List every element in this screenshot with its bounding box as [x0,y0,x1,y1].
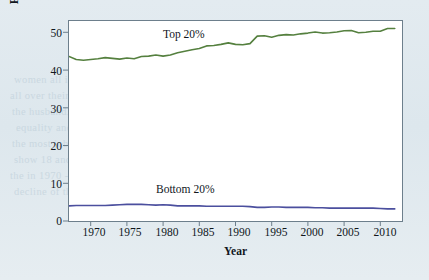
plot-area [68,20,403,222]
line-bottom-20 [69,204,395,209]
y-tick-label: 20 [36,140,62,152]
x-tick-label: 2010 [368,226,402,238]
line-top-20 [69,29,395,61]
y-tick-label: 40 [36,65,62,77]
x-tick-label: 1980 [150,226,184,238]
y-tick-label: 50 [36,27,62,39]
x-tick-label: 2005 [331,226,365,238]
x-tick-label: 1985 [186,226,220,238]
y-tick-label: 10 [36,178,62,190]
x-tick-label: 1995 [259,226,293,238]
series-label-bottom: Bottom 20% [156,183,214,195]
y-axis-title-wrap: Percentage of total income [12,16,26,222]
series-canvas [69,21,402,221]
series-label-top: Top 20% [163,28,205,40]
x-tick-label: 1970 [77,226,111,238]
x-tick-label: 1990 [222,226,256,238]
x-tick-label: 1975 [113,226,147,238]
x-axis-title: Year [68,245,403,257]
x-axis-ticks: 1970 1975 1980 1985 1990 1995 2000 2005 … [0,226,429,242]
y-tick-label: 30 [36,103,62,115]
y-axis-title: Percentage of total income [8,0,20,38]
chart-figure: ern inequality women all income are with… [0,0,429,280]
x-tick-label: 2000 [295,226,329,238]
